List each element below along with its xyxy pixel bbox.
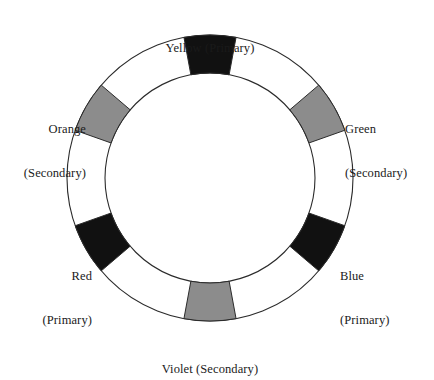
inner-circle <box>105 73 315 283</box>
segment-label-red-line-1: Red <box>0 269 92 284</box>
segment-label-orange: Orange (Secondary) <box>0 93 86 209</box>
segment-label-orange-line-2: (Secondary) <box>0 166 86 181</box>
segment-label-green-line-1: Green <box>345 122 434 137</box>
swatch-violet <box>184 281 236 321</box>
segment-label-red-line-2: (Primary) <box>0 313 92 328</box>
segment-label-orange-line-1: Orange <box>0 122 86 137</box>
segment-label-blue-line-1: Blue <box>340 269 434 284</box>
segment-label-violet-line-1: Violet (Secondary) <box>125 362 295 377</box>
segment-label-blue-line-2: (Primary) <box>340 313 434 328</box>
segment-label-green-line-2: (Secondary) <box>345 166 434 181</box>
segment-label-yellow: Yellow (Primary) <box>128 12 292 85</box>
segment-label-yellow-line-1: Yellow (Primary) <box>128 41 292 56</box>
segment-label-red: Red (Primary) <box>0 240 92 356</box>
segment-label-green: Green (Secondary) <box>345 93 434 209</box>
segment-label-blue: Blue (Primary) <box>340 240 434 356</box>
segment-label-violet: Violet (Secondary) <box>125 333 295 380</box>
